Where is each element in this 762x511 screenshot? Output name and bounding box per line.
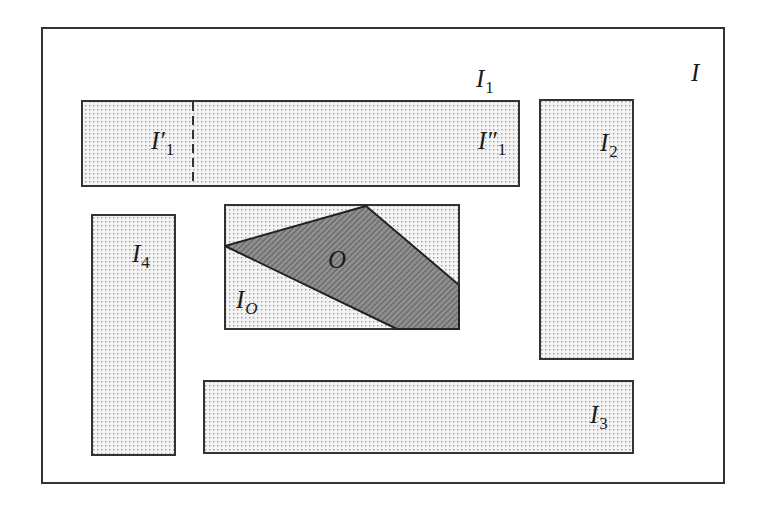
label-IO-sub: O	[245, 299, 257, 318]
label-I1-double-prime-sub: 1	[498, 140, 507, 159]
label-I1-main: I	[476, 65, 484, 92]
region-I1	[82, 101, 519, 186]
diagram-canvas: I I1 I′1 I″1 I2 I4 O IO I3	[0, 0, 762, 511]
label-IO-main: I	[236, 286, 244, 313]
label-I1-double-prime: I″1	[478, 128, 506, 158]
region-I2	[540, 100, 633, 359]
label-I-main: I	[691, 59, 699, 86]
label-IO: IO	[236, 287, 258, 317]
label-I2: I2	[600, 130, 618, 160]
label-I3-main: I	[590, 401, 598, 428]
label-I3: I3	[590, 402, 608, 432]
label-I: I	[691, 60, 699, 85]
label-I1-sub: 1	[485, 78, 494, 97]
label-I3-sub: 3	[599, 414, 608, 433]
region-I3	[204, 381, 633, 453]
label-I1-prime-sub: 1	[166, 140, 175, 159]
label-O-main: O	[328, 246, 346, 273]
diagram-svg	[0, 0, 762, 511]
label-I4-main: I	[132, 240, 140, 267]
label-I1-prime-main: I′	[151, 127, 165, 154]
label-I1: I1	[476, 66, 494, 96]
label-I2-main: I	[600, 129, 608, 156]
label-I2-sub: 2	[609, 142, 618, 161]
label-I4: I4	[132, 241, 150, 271]
label-I1-double-prime-main: I″	[478, 127, 497, 154]
label-I4-sub: 4	[141, 253, 150, 272]
label-I1-prime: I′1	[151, 128, 174, 158]
label-O: O	[328, 247, 346, 272]
